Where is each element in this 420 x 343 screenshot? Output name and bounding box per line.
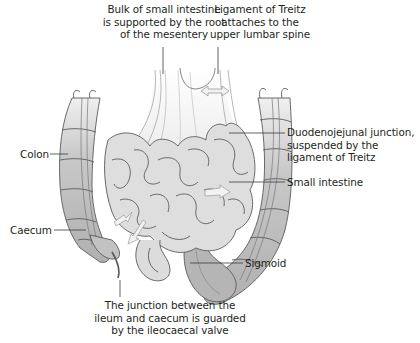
- label-small-intestine: Small intestine: [287, 176, 363, 189]
- label-duodenojejunal: Duodenojejunal junction, suspended by th…: [287, 126, 414, 164]
- label-treitz-line2: attaches to the: [200, 16, 320, 29]
- label-ileocaecal-line3: by the ileocaecal valve: [90, 324, 250, 337]
- label-treitz-line3: upper lumbar spine: [200, 28, 320, 41]
- ascending-colon: [60, 90, 110, 262]
- label-treitz: Ligament of Treitz attaches to the upper…: [200, 3, 320, 41]
- label-duodenojejunal-line3: ligament of Treitz: [287, 151, 414, 164]
- label-ileocaecal: The junction between the ileum and caecu…: [90, 299, 250, 337]
- label-duodenojejunal-line2: suspended by the: [287, 139, 414, 152]
- label-ileocaecal-line1: The junction between the: [90, 299, 250, 312]
- label-treitz-line1: Ligament of Treitz: [200, 3, 320, 16]
- small-intestine: [105, 123, 255, 281]
- label-ileocaecal-line2: ileum and caecum is guarded: [90, 312, 250, 325]
- label-colon: Colon: [20, 148, 49, 161]
- label-caecum: Caecum: [10, 224, 52, 237]
- intestine-illustration: [0, 0, 420, 343]
- label-duodenojejunal-line1: Duodenojejunal junction,: [287, 126, 414, 139]
- label-sigmoid: Sigmoid: [245, 257, 286, 270]
